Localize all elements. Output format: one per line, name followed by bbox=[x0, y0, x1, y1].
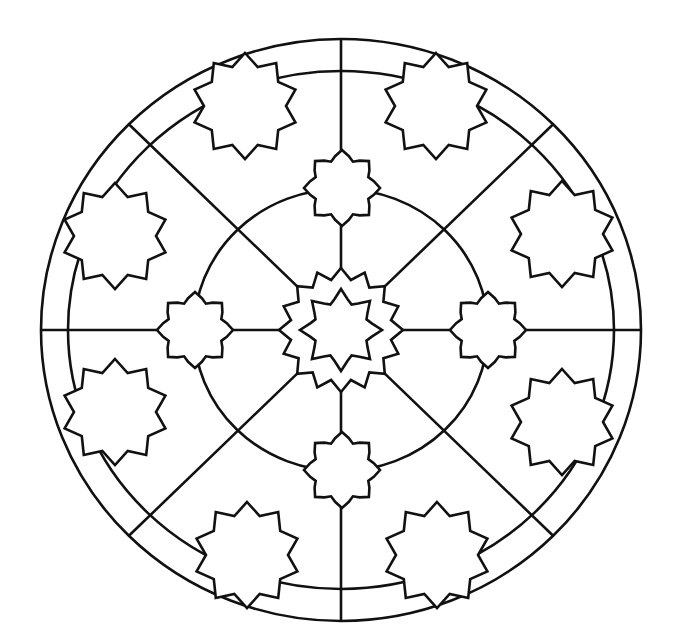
cardinal-star-bottom bbox=[304, 432, 380, 508]
cardinal-star-right bbox=[450, 292, 526, 368]
outer-star-upper-left bbox=[65, 183, 166, 289]
outer-star-upper-right bbox=[512, 181, 613, 287]
cardinal-star-top bbox=[304, 150, 380, 226]
outer-star-lower-left bbox=[65, 359, 166, 465]
spoke-line bbox=[380, 369, 553, 536]
mandala-drawing bbox=[0, 0, 685, 644]
mandala-canvas: Mandala coloring page bbox=[0, 0, 685, 644]
cardinal-star-left bbox=[157, 292, 233, 368]
outer-star-lower-right bbox=[512, 369, 613, 475]
center-inner-star bbox=[300, 289, 382, 371]
